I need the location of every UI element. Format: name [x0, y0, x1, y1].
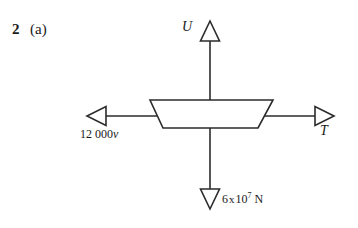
question-part-label: (a) — [30, 22, 47, 37]
arrow-left-icon — [87, 107, 106, 126]
force-left-value: 12 000 — [80, 127, 113, 141]
question-number: 2 — [12, 22, 20, 37]
arrow-left-group — [87, 107, 157, 126]
force-down-exponent: 7 — [248, 191, 252, 200]
arrow-up-group — [201, 21, 220, 100]
force-label-right: T — [320, 124, 328, 138]
vessel-hull-shape — [150, 100, 273, 128]
force-down-unit: N — [255, 192, 264, 206]
multiplication-sign: x — [228, 193, 236, 205]
force-diagram — [0, 0, 358, 228]
diagram-canvas: 2 (a) U T 12 000v 6x107 N — [0, 0, 358, 228]
arrow-down-icon — [201, 189, 220, 209]
force-label-left: 12 000v — [80, 128, 118, 140]
arrow-up-icon — [201, 21, 220, 41]
force-label-up: U — [182, 20, 192, 34]
arrow-down-group — [201, 128, 220, 209]
force-label-down: 6x107 N — [222, 193, 263, 205]
force-left-symbol: v — [113, 127, 118, 141]
force-down-base: 10 — [236, 192, 248, 206]
